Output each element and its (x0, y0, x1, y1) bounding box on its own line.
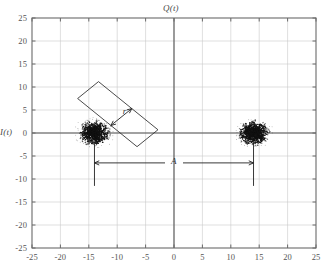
y-tick-label: 15 (0, 59, 27, 69)
x-tick-label: 10 (217, 252, 245, 262)
plot-canvas (0, 0, 325, 271)
x-tick-label: -5 (132, 252, 160, 262)
y-tick-label: 20 (0, 36, 27, 46)
x-tick-label: 0 (160, 252, 188, 262)
y-tick-label: -5 (0, 151, 27, 161)
x-tick-label: 5 (188, 252, 216, 262)
x-tick-label: -20 (46, 252, 74, 262)
y-tick-label: 10 (0, 82, 27, 92)
x-tick-label: 25 (302, 252, 325, 262)
y-tick-label: -25 (0, 243, 27, 253)
x-tick-label: -10 (103, 252, 131, 262)
y-tick-label: 25 (0, 13, 27, 23)
constellation-figure: Q(t) I(t) r A -25-20-15-10-50510152025 2… (0, 0, 325, 271)
y-tick-label: -20 (0, 220, 27, 230)
x-tick-label: -15 (75, 252, 103, 262)
x-tick-label: 15 (245, 252, 273, 262)
y-tick-label: 5 (0, 105, 27, 115)
y-tick-label: -10 (0, 174, 27, 184)
y-tick-label: 0 (0, 128, 27, 138)
annotation-label-r: r (123, 106, 127, 116)
axis-title-q: Q(t) (163, 3, 179, 13)
annotation-label-a: A (171, 156, 177, 166)
x-tick-label: -25 (18, 252, 46, 262)
x-tick-label: 20 (274, 252, 302, 262)
y-tick-label: -15 (0, 197, 27, 207)
